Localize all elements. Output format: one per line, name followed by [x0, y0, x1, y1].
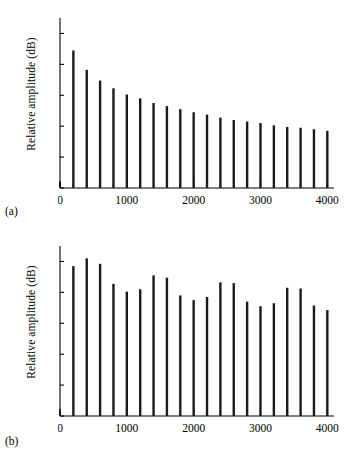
x-tick-label: 0: [58, 194, 63, 206]
chart-panel-a: Relative amplitude (dB) 0−20−40−60−80−10…: [0, 0, 356, 228]
chart-svg-a: 0−20−40−60−80−10001000200030004000: [58, 16, 348, 221]
figure-container: Relative amplitude (dB) 0−20−40−60−80−10…: [0, 0, 356, 457]
chart-svg-b: 0−20−40−60−80−10001000200030004000: [58, 244, 348, 449]
x-tick-label: 2000: [182, 194, 205, 206]
x-tick-label: 2000: [182, 422, 205, 434]
chart-panel-b: Relative amplitude (dB) 0−20−40−60−80−10…: [0, 228, 356, 457]
x-tick-label: 4000: [316, 422, 339, 434]
x-tick-label: 1000: [115, 422, 138, 434]
x-tick-label: 4000: [316, 194, 339, 206]
y-axis-title-b: Relative amplitude (dB): [25, 242, 37, 402]
x-tick-label: 0: [58, 422, 63, 434]
x-tick-label: 1000: [115, 194, 138, 206]
plot-area-a: 0−20−40−60−80−10001000200030004000: [58, 16, 346, 186]
y-axis-title-a: Relative amplitude (dB): [25, 14, 37, 174]
plot-area-b: 0−20−40−60−80−10001000200030004000: [58, 244, 346, 414]
x-tick-label: 3000: [249, 194, 272, 206]
subfigure-label-a: (a): [5, 205, 18, 217]
x-tick-label: 3000: [249, 422, 272, 434]
subfigure-label-b: (b): [5, 435, 18, 447]
